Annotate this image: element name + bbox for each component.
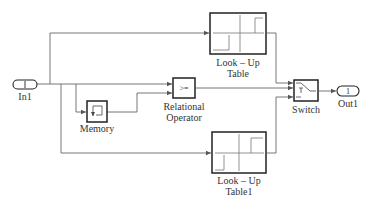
outport-label: Out1 <box>338 98 358 109</box>
block-label-line2: Operator <box>166 112 202 123</box>
block-frame <box>210 13 266 54</box>
block-label-line1: Look – Up <box>217 175 260 186</box>
block-switch[interactable]: Switch <box>292 80 320 115</box>
line-in1-to-lookup-table <box>50 33 209 84</box>
block-label-line1: Relational <box>163 101 204 112</box>
block-label-line2: Table1 <box>225 186 252 197</box>
block-lookup-table1[interactable]: Look – Up Table1 <box>212 132 266 197</box>
block-relational-operator[interactable]: >= Relational Operator <box>163 78 204 123</box>
block-label-line2: Table <box>227 68 250 79</box>
block-memory[interactable]: Memory <box>80 101 114 134</box>
diagram-canvas: In1 Look – Up Table Memory >= Relational… <box>0 0 369 208</box>
block-label-line1: Look – Up <box>216 57 259 68</box>
outport-out1[interactable]: 1 Out1 <box>337 86 359 109</box>
line-lookup-to-switch <box>267 33 293 83</box>
block-lookup-table[interactable]: Look – Up Table <box>210 13 266 79</box>
inport-in1[interactable]: In1 <box>13 80 37 102</box>
port-number: 1 <box>346 87 350 96</box>
block-label: Switch <box>292 104 320 115</box>
line-in1-to-memory <box>76 84 86 112</box>
block-label: Memory <box>80 123 114 134</box>
line-lookup1-to-switch <box>267 97 293 153</box>
inport-label: In1 <box>18 91 31 102</box>
block-frame <box>87 101 107 122</box>
operator-symbol: >= <box>179 84 189 93</box>
line-memory-to-relop <box>107 93 172 112</box>
